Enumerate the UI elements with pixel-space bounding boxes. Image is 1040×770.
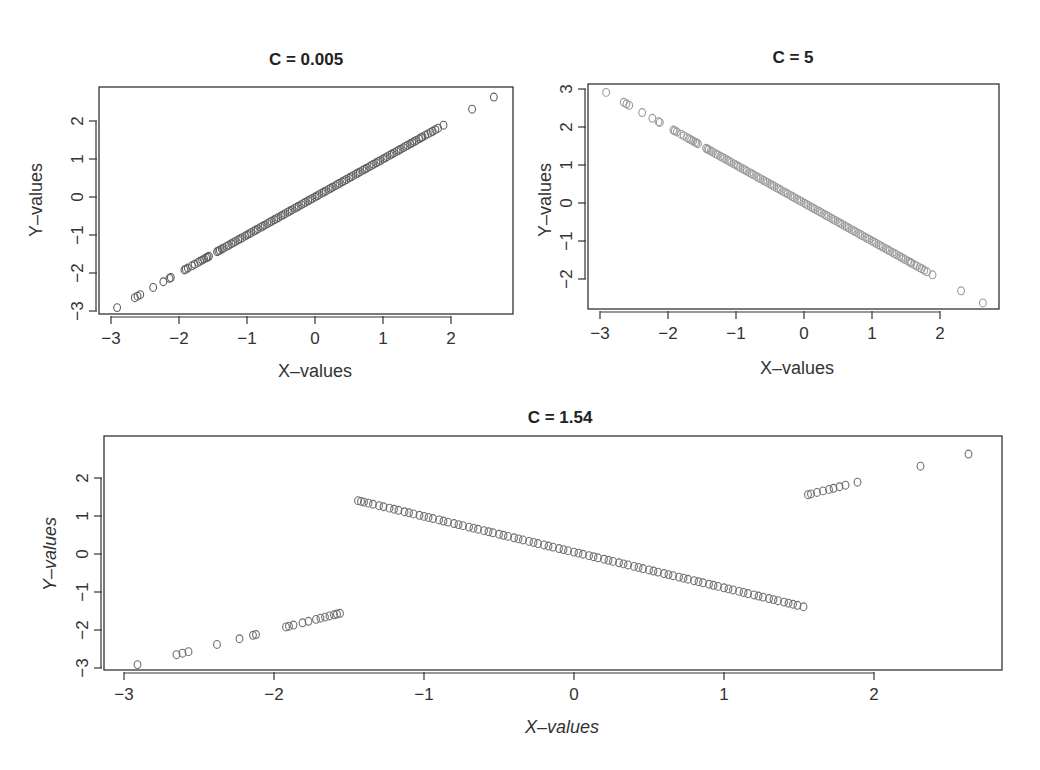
data-point [317,614,324,622]
scatter-plot-c-1-54: C = 1.54 −3−2−1012 −3−2−1012 X–values Y–… [40,408,1002,737]
data-point [710,581,717,589]
data-point [150,284,157,292]
x-tick-label: 0 [310,329,319,348]
y-tick-label: −2 [68,263,87,282]
x-tick-label: 2 [935,324,944,343]
data-point [391,505,398,513]
x-axis: −3−2−1012 [590,311,944,343]
data-point [725,585,732,593]
y-tick-label: −3 [73,658,92,677]
data-point [770,596,777,604]
data-point [620,560,627,568]
plot-title: C = 5 [772,48,813,67]
x-tick-label: 1 [867,324,876,343]
data-point [979,299,986,307]
x-axis: −3−2−1012 [101,316,455,348]
y-axis-label: Y–values [26,163,46,237]
data-point [665,571,672,579]
x-tick-label: −2 [169,329,188,348]
y-tick-label: 2 [73,473,92,482]
data-point [917,462,924,470]
data-point [965,450,972,458]
data-point [469,105,476,113]
data-point [639,109,646,117]
data-point [214,641,221,649]
data-point [421,512,428,520]
x-tick-label: −1 [414,685,433,704]
y-axis: −2−10123 [557,84,586,288]
y-tick-label: −3 [68,301,87,320]
data-point [485,528,492,536]
data-points [134,450,972,668]
scatter-plot-c-5: C = 5 −3−2−1012 −2−10123 X–values Y–valu… [535,48,999,378]
y-axis: −3−2−1012 [73,473,102,677]
y-tick-label: 3 [557,84,576,93]
y-tick-label: −1 [73,582,92,601]
data-point [605,556,612,564]
data-point [455,521,462,529]
x-tick-label: 0 [799,324,808,343]
data-point [500,531,507,539]
x-tick-label: −3 [114,685,133,704]
data-point [740,589,747,597]
data-point [515,535,522,543]
data-points [114,93,498,311]
data-points [603,89,987,307]
y-tick-label: −1 [557,231,576,250]
x-axis-label: X–values [524,717,599,737]
y-tick-label: 2 [68,116,87,125]
x-tick-label: 1 [378,329,387,348]
data-point [236,635,243,643]
y-tick-label: 1 [73,511,92,520]
data-point [560,546,567,554]
y-tick-label: −2 [557,269,576,288]
data-point [134,661,141,669]
plot-title: C = 0.005 [269,50,343,69]
x-tick-label: −2 [658,324,677,343]
data-point [290,621,297,629]
data-point [790,600,797,608]
y-tick-label: 0 [557,198,576,207]
data-point [680,574,687,582]
x-tick-label: 2 [446,329,455,348]
x-tick-label: −1 [237,329,256,348]
x-tick-label: 2 [869,685,878,704]
y-tick-label: 1 [68,154,87,163]
x-tick-label: −1 [726,324,745,343]
data-point [490,93,497,101]
y-axis-label: Y–values [535,163,555,237]
x-tick-label: −3 [101,329,120,348]
x-tick-label: 1 [719,685,728,704]
data-point [958,287,965,295]
data-point [695,578,702,586]
x-axis-label: X–values [278,361,352,381]
y-tick-label: 0 [68,192,87,201]
data-point [590,553,597,561]
plot-title: C = 1.54 [528,408,593,427]
data-point [326,612,333,620]
data-point [425,514,432,522]
data-point [755,592,762,600]
data-point [635,564,642,572]
y-tick-label: −2 [73,620,92,639]
data-point [440,517,447,525]
x-tick-label: 0 [569,685,578,704]
x-tick-label: −2 [264,685,283,704]
data-point [530,539,537,547]
data-point [854,478,861,486]
data-point [603,89,610,97]
data-point [322,613,329,621]
data-point [406,509,413,517]
x-tick-label: −3 [590,324,609,343]
data-point [470,524,477,532]
figure-canvas: C = 0.005 −3−2−1012 −3−2−1012 X–values Y… [0,0,1040,770]
data-point [929,271,936,279]
y-tick-label: 1 [557,160,576,169]
y-tick-label: 0 [73,549,92,558]
data-point [545,542,552,550]
scatter-plot-c-0-005: C = 0.005 −3−2−1012 −3−2−1012 X–values Y… [26,50,513,381]
data-point [114,304,121,312]
data-point [650,567,657,575]
data-point [575,549,582,557]
y-tick-label: 2 [557,122,576,131]
